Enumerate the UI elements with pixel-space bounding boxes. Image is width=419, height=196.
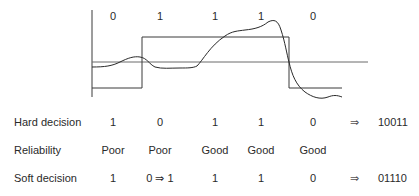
row-value: 0 — [310, 116, 316, 128]
row-label: Hard decision — [14, 116, 81, 128]
implies-arrow-icon: ⇒ — [350, 172, 359, 184]
implies-arrow-icon: ⇒ — [350, 116, 359, 128]
row-value: Good — [300, 144, 327, 156]
top-bit-3: 1 — [212, 10, 218, 22]
row-value: 1 — [258, 172, 264, 184]
top-bit-1: 0 — [110, 10, 116, 22]
row-value: 0 — [157, 116, 163, 128]
waveform-diagram — [0, 0, 419, 196]
received-signal-curve — [92, 21, 342, 99]
row-label: Soft decision — [14, 172, 77, 184]
row-value: 1 — [258, 116, 264, 128]
row-value: Poor — [101, 144, 124, 156]
hard-decision-result: 10011 — [378, 116, 408, 128]
row-value: 1 — [110, 116, 116, 128]
row-value: Good — [202, 144, 229, 156]
row-value: 1 — [212, 116, 218, 128]
top-bit-5: 0 — [310, 10, 316, 22]
soft-decision-result: 01110 — [378, 172, 407, 184]
row-value: Poor — [148, 144, 171, 156]
row-value: 1 — [110, 172, 116, 184]
row-value: 0 ⇒ 1 — [146, 172, 173, 184]
top-bit-4: 1 — [258, 10, 264, 22]
row-value: 0 — [310, 172, 316, 184]
row-value: 1 — [212, 172, 218, 184]
top-bit-2: 1 — [157, 10, 163, 22]
row-label: Reliability — [14, 144, 61, 156]
row-value: Good — [248, 144, 275, 156]
